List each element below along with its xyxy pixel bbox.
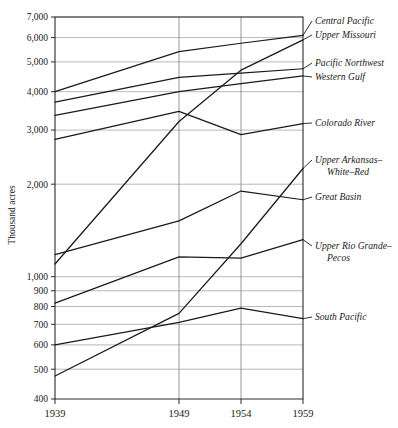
series-label-central-pacific: Central Pacific [315, 15, 375, 26]
x-tick-label: 1959 [293, 408, 314, 419]
line-chart-figure: 4005006007008009001,0002,0003,0004,0005,… [0, 0, 398, 428]
series-label-great-basin: Great Basin [315, 191, 361, 202]
series-label-western-gulf: Western Gulf [315, 71, 366, 82]
label-leader-line [303, 35, 312, 40]
series-label-colorado-river: Colorado River [315, 117, 375, 128]
label-leader-line [303, 21, 312, 35]
y-tick-label: 6,000 [27, 33, 49, 43]
x-tick-label: 1949 [169, 408, 190, 419]
y-tick-label: 7,000 [27, 12, 49, 22]
label-leader-line [303, 317, 312, 319]
y-tick-label: 400 [34, 394, 49, 404]
series-label-upper-arkansas-white-red: Upper Arkansas–White–Red [315, 154, 382, 177]
y-tick-label: 600 [34, 340, 49, 350]
y-tick-label: 700 [34, 320, 49, 330]
y-tick-label: 500 [34, 365, 49, 375]
label-leader-line [303, 123, 312, 124]
series-label-south-pacific: South Pacific [315, 311, 367, 322]
y-axis-title: Thousand acres [7, 185, 17, 245]
label-leader-line [303, 160, 312, 168]
y-tick-label: 800 [34, 302, 49, 312]
y-tick-label: 4,000 [27, 87, 49, 97]
y-tick-label: 3,000 [27, 125, 49, 135]
label-leader-line [303, 63, 312, 69]
y-tick-label: 1,000 [27, 272, 49, 282]
y-tick-label: 5,000 [27, 57, 49, 67]
label-leader-line [303, 197, 312, 200]
x-tick-label: 1954 [231, 408, 253, 419]
y-tick-label: 900 [34, 286, 49, 296]
series-label-pacific-northwest: Pacific Northwest [314, 57, 384, 68]
y-tick-label: 2,000 [27, 180, 49, 190]
series-label-upper-missouri: Upper Missouri [315, 29, 376, 40]
series-label-upper-rio-grande-pecos: Upper Rio Grande–Pecos [315, 240, 392, 263]
label-leader-line [303, 240, 312, 246]
label-leader-line [303, 76, 312, 77]
x-tick-label: 1939 [45, 408, 66, 419]
chart-canvas: 4005006007008009001,0002,0003,0004,0005,… [0, 0, 398, 428]
